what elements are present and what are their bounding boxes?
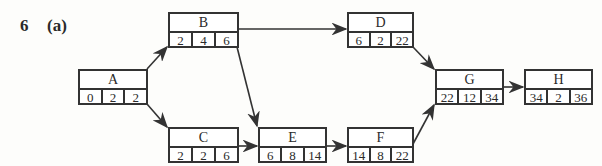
activity-label: D <box>349 14 412 33</box>
activity-label: A <box>80 71 146 90</box>
earliest-start: 6 <box>260 148 282 162</box>
duration: 8 <box>282 148 304 162</box>
duration: 2 <box>371 33 393 47</box>
earliest-finish: 34 <box>482 90 502 104</box>
duration: 2 <box>548 90 570 104</box>
arrow-a-c <box>147 104 167 127</box>
activity-node-c: C 226 <box>168 127 239 163</box>
earliest-finish: 2 <box>125 90 146 104</box>
activity-node-g: G 221234 <box>435 69 504 105</box>
duration: 2 <box>193 148 216 162</box>
activity-node-d: D 6222 <box>347 12 414 48</box>
duration: 4 <box>193 33 216 47</box>
activity-label: H <box>526 71 591 90</box>
earliest-finish: 6 <box>216 148 237 162</box>
earliest-start: 6 <box>349 33 371 47</box>
earliest-finish: 22 <box>392 148 412 162</box>
earliest-finish: 14 <box>305 148 325 162</box>
earliest-finish: 6 <box>216 33 237 47</box>
activity-label: G <box>437 71 502 90</box>
activity-node-e: E 6814 <box>258 127 327 163</box>
activity-node-a: A 022 <box>78 69 148 105</box>
arrow-f-g <box>413 105 434 144</box>
arrow-d-g <box>413 47 434 69</box>
activity-label: B <box>170 14 237 33</box>
activity-node-h: H 34236 <box>524 69 593 105</box>
activity-node-b: B 246 <box>168 12 239 48</box>
earliest-start: 34 <box>526 90 548 104</box>
arrow-a-b <box>147 47 167 69</box>
duration: 2 <box>103 90 126 104</box>
activity-node-f: F 14822 <box>347 127 414 163</box>
earliest-start: 14 <box>349 148 371 162</box>
earliest-start: 2 <box>170 33 193 47</box>
earliest-start: 22 <box>437 90 459 104</box>
earliest-finish: 36 <box>571 90 591 104</box>
earliest-start: 0 <box>80 90 103 104</box>
duration: 12 <box>459 90 481 104</box>
earliest-finish: 22 <box>392 33 412 47</box>
activity-label: E <box>260 129 325 148</box>
arrow-b-e <box>237 47 257 126</box>
duration: 8 <box>371 148 393 162</box>
activity-label: C <box>170 129 237 148</box>
earliest-start: 2 <box>170 148 193 162</box>
activity-label: F <box>349 129 412 148</box>
